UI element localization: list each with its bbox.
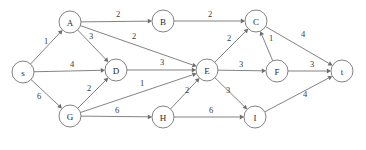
edge-line	[171, 81, 197, 109]
node-label-A: A	[67, 18, 74, 28]
node-label-I: I	[254, 113, 257, 123]
edge-weight-F-C: 1	[269, 33, 273, 43]
graph-canvas-svg: sABCDEFGHIt 14623224321662233134	[0, 0, 366, 150]
edge-weight-E-C: 2	[227, 33, 231, 43]
edge-weight-G-H: 6	[115, 105, 119, 115]
edge-G-to-D	[78, 78, 108, 108]
edge-line	[34, 70, 101, 71]
edge-weight-E-F: 3	[239, 59, 243, 69]
edge-weight-C-t: 4	[301, 29, 306, 39]
node-label-B: B	[160, 17, 166, 27]
edge-E-to-I	[215, 78, 247, 110]
edge-D-to-E	[127, 68, 196, 73]
edge-weight-F-t: 3	[310, 59, 314, 69]
graph-diagram: sABCDEFGHIt 14623224321662233134	[0, 0, 366, 150]
edge-weight-G-D: 2	[87, 83, 91, 93]
node-I[interactable]: I	[244, 106, 266, 128]
edge-E-to-F	[218, 68, 266, 73]
edge-line	[265, 78, 329, 112]
nodes-layer: sABCDEFGHIt	[12, 10, 353, 128]
edge-F-to-t	[288, 69, 331, 74]
edge-G-to-H	[81, 114, 152, 119]
node-label-G: G	[67, 112, 74, 122]
edge-arrowhead	[148, 19, 152, 24]
node-label-E: E	[204, 66, 210, 76]
node-F[interactable]: F	[266, 60, 288, 82]
edge-arrowhead	[192, 68, 196, 73]
node-label-C: C	[253, 17, 259, 27]
node-label-H: H	[160, 113, 167, 123]
edge-H-to-I	[174, 115, 244, 120]
node-E[interactable]: E	[196, 59, 218, 81]
node-label-F: F	[274, 67, 279, 77]
edge-weight-A-E: 2	[132, 31, 136, 41]
edge-line	[81, 116, 148, 117]
edge-line	[218, 70, 262, 71]
edge-line	[78, 81, 105, 108]
edge-weight-H-I: 6	[209, 105, 213, 115]
edge-weight-E-I: 3	[226, 85, 230, 95]
edge-line	[80, 75, 192, 113]
node-D[interactable]: D	[105, 59, 127, 81]
node-s[interactable]: s	[12, 61, 34, 83]
edge-arrowhead	[148, 114, 152, 119]
edge-B-to-C	[174, 19, 245, 24]
edge-weight-s-D: 4	[70, 59, 75, 69]
edge-weight-s-A: 1	[44, 36, 48, 46]
node-label-D: D	[113, 66, 120, 76]
edge-arrowhead	[262, 68, 266, 73]
edge-weight-D-E: 3	[160, 57, 164, 67]
edge-C-to-t	[266, 27, 333, 66]
edge-weight-s-G: 6	[37, 91, 41, 101]
edge-line	[31, 80, 59, 106]
edge-weight-A-B: 2	[116, 9, 120, 19]
edge-arrowhead	[101, 68, 105, 73]
node-t[interactable]: t	[331, 60, 353, 82]
edge-weight-H-E: 2	[185, 85, 189, 95]
node-C[interactable]: C	[245, 10, 267, 32]
edge-A-to-E	[80, 26, 196, 68]
node-H[interactable]: H	[152, 106, 174, 128]
edge-E-to-C	[215, 29, 248, 62]
edge-A-to-B	[81, 19, 152, 24]
edge-G-to-E	[80, 73, 196, 113]
edge-line	[266, 27, 329, 64]
edge-arrowhead	[327, 69, 331, 74]
node-label-s: s	[21, 68, 25, 78]
edge-weight-A-D: 3	[89, 31, 93, 41]
edge-line	[80, 26, 192, 65]
edge-weight-I-t: 4	[303, 89, 308, 99]
edge-arrowhead	[240, 115, 244, 120]
node-A[interactable]: A	[59, 11, 81, 33]
edge-arrowhead	[241, 19, 245, 24]
edge-line	[81, 21, 148, 22]
edge-s-to-G	[31, 80, 62, 109]
edge-weight-B-C: 2	[208, 9, 212, 19]
node-B[interactable]: B	[152, 10, 174, 32]
node-G[interactable]: G	[59, 105, 81, 127]
edge-weight-G-E: 1	[140, 78, 144, 88]
